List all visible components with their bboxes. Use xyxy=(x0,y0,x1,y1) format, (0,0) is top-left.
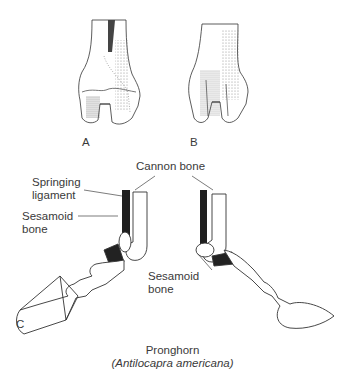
pronghorn-foot-right xyxy=(196,190,334,328)
caption-common-name: Pronghorn xyxy=(0,344,345,357)
caption-scientific-name: (Antilocapra americana) xyxy=(0,357,345,370)
label-cannon-bone: Cannon bone xyxy=(136,160,205,173)
panel-label-c: C xyxy=(16,318,24,331)
label-springing-ligament: Springing ligament xyxy=(32,176,81,202)
label-sesamoid-bone-left: Sesamoid bone xyxy=(22,210,73,236)
cannon-bone-drawing-b xyxy=(189,24,248,123)
label-sesamoid-bone-right: Sesamoid bone xyxy=(148,270,199,296)
cannon-bone-drawing-a xyxy=(79,20,140,124)
panel-label-b: B xyxy=(190,136,198,149)
panel-label-a: A xyxy=(82,136,90,149)
